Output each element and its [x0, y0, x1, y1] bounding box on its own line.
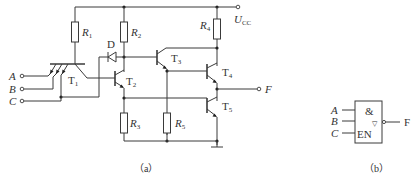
t1-label: T1	[68, 74, 79, 88]
t4-label: T4	[222, 66, 233, 80]
gate-input-b-label: B	[331, 115, 338, 127]
input-b-label: B	[9, 83, 16, 95]
resistor-r1	[72, 22, 79, 42]
t3-label: T3	[171, 52, 182, 66]
input-a-label: A	[8, 70, 16, 82]
resistor-r3	[121, 113, 128, 133]
circuit-a: UCC R1 R2 D T1 A	[8, 5, 272, 174]
output-f-terminal	[257, 87, 261, 91]
diode-d	[108, 52, 116, 62]
ucc-label: UCC	[234, 13, 252, 27]
input-a-terminal	[20, 74, 24, 78]
resistor-r5	[164, 113, 171, 133]
resistor-r2	[121, 22, 128, 42]
gate-function-label: &	[365, 105, 374, 117]
ucc-terminal	[236, 5, 240, 9]
output-f-label: F	[264, 83, 272, 95]
enable-label: EN	[357, 128, 372, 140]
caption-a: （a）	[134, 163, 158, 174]
caption-b: （b）	[364, 163, 389, 174]
inversion-bubble	[382, 120, 385, 123]
input-c-terminal	[20, 99, 24, 103]
r2-label: R2	[130, 26, 142, 40]
r5-label: R5	[174, 117, 186, 131]
tristate-nand-diagram: UCC R1 R2 D T1 A	[0, 0, 418, 183]
r1-label: R1	[81, 26, 93, 40]
input-c-label: C	[9, 95, 17, 107]
gate-output-f-label: F	[404, 116, 410, 128]
diode-label: D	[107, 38, 115, 50]
gate-input-c-label: C	[331, 127, 339, 139]
t2-label: T2	[126, 75, 137, 89]
r4-label: R4	[199, 19, 211, 33]
t5-label: T5	[222, 100, 233, 114]
r3-label: R3	[129, 117, 141, 131]
symbol-b: & ▽ EN A B C F （b）	[330, 101, 410, 174]
resistor-r4	[214, 19, 221, 39]
input-b-terminal	[20, 87, 24, 91]
